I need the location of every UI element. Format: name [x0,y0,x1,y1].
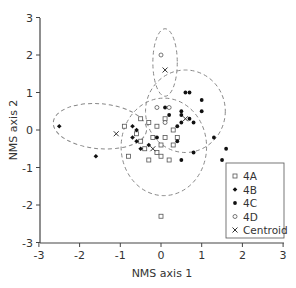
y-axis-title: NMS axis 2 [7,100,20,161]
point-4a [155,151,159,155]
ellipse-4d [153,29,177,97]
point-4c [167,113,171,117]
legend-marker-4a-icon [233,174,237,178]
point-4c [179,121,183,125]
point-4a [139,139,143,143]
point-4c [179,113,183,117]
point-4d [163,121,167,125]
point-4a [126,154,130,158]
centroid-4d-icon [163,68,168,73]
point-4a [159,143,163,147]
centroid-4b-icon [114,131,119,136]
point-4a [167,158,171,162]
point-4d [159,53,163,57]
point-4c [179,158,183,162]
x-tick-label: -3 [33,249,44,262]
point-4c [220,158,224,162]
point-4a [147,158,151,162]
point-4c [192,151,196,155]
point-4c [192,121,196,125]
y-tick-label: 3 [26,12,33,25]
point-4b [130,124,135,129]
legend: 4A4B4C4DCentroid [226,163,288,238]
point-4b [138,146,143,151]
point-4c [175,124,179,128]
centroid-4a-icon [150,146,155,151]
x-tick-label: -2 [74,249,85,262]
legend-marker-4c-icon [233,201,237,205]
point-4c [224,147,228,151]
x-tick-label: 3 [280,249,287,262]
legend-label-centroid: Centroid [243,224,288,236]
point-4c [200,98,204,102]
point-4b [94,154,99,159]
point-4c [179,109,183,113]
point-4c [188,117,192,121]
point-4a [159,154,163,158]
point-4c [155,136,159,140]
point-4c [212,136,216,140]
point-4a [122,124,126,128]
legend-label-4c: 4C [243,197,257,209]
confidence-ellipses [51,29,225,196]
point-4a [143,147,147,151]
point-4a [163,136,167,140]
point-4c [175,139,179,143]
point-4c [200,109,204,113]
point-4c [184,91,188,95]
x-ticks: -3-2-10123 [33,243,286,262]
x-axis-title: NMS axis 1 [132,267,193,280]
point-4d [155,106,159,110]
data-points [57,53,228,218]
point-4b [130,135,135,140]
legend-label-4d: 4D [243,211,258,223]
x-tick-label: 2 [239,249,246,262]
point-4a [139,117,143,121]
ellipse-4a [121,98,206,196]
nms-scatter-chart: -3-2-10123 -3-2-10123 NMS axis 1 NMS axi… [0,0,296,288]
y-tick-label: 1 [26,87,33,100]
legend-marker-4d-icon [233,215,237,219]
point-4a [147,121,151,125]
point-4a [159,214,163,218]
point-4a [175,136,179,140]
point-4a [155,124,159,128]
y-tick-label: -3 [22,237,33,250]
y-tick-label: -1 [22,162,33,175]
centroid-4c-icon [183,116,188,121]
point-4a [151,136,155,140]
point-4b [57,124,62,129]
y-tick-label: 2 [26,49,33,62]
legend-label-4b: 4B [243,184,257,196]
x-tick-label: -1 [115,249,126,262]
x-tick-label: 0 [158,249,165,262]
x-tick-label: 1 [198,249,205,262]
point-4c [188,91,192,95]
point-4b [134,139,139,144]
axes: -3-2-10123 -3-2-10123 NMS axis 1 NMS axi… [7,12,287,281]
point-4c [163,106,167,110]
point-4a [171,128,175,132]
y-tick-label: 0 [26,124,33,137]
ellipse-4c [146,70,226,153]
y-ticks: -3-2-10123 [22,12,40,250]
y-tick-label: -2 [22,199,33,212]
legend-label-4a: 4A [243,170,258,182]
point-4a [135,132,139,136]
point-4a [171,143,175,147]
point-4d [167,106,171,110]
